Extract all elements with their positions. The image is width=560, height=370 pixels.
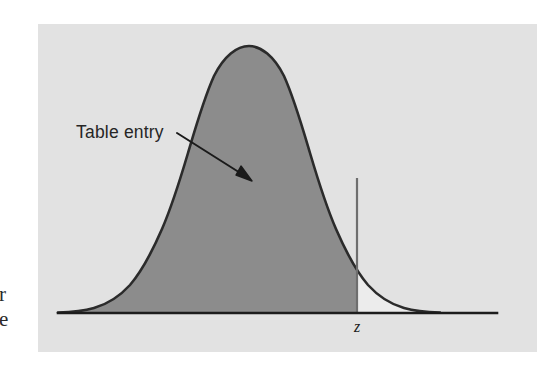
margin-text-fragment-1: r (0, 284, 6, 305)
figure-page: r e (0, 0, 560, 370)
margin-text-fragment-2: e (0, 309, 8, 330)
normal-curve-figure-panel: Table entry z (38, 24, 537, 352)
normal-distribution-diagram: Table entry z (38, 24, 537, 352)
z-axis-label: z (353, 318, 361, 335)
table-entry-label: Table entry (76, 122, 164, 142)
